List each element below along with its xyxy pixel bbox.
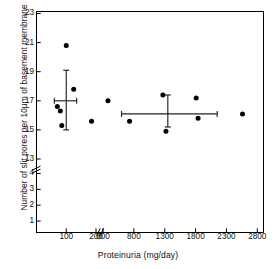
axis-ticks [37,14,258,233]
x-axis-title-unit: (mg/day) [144,250,179,260]
data-point [127,119,132,124]
axis-break-marks [32,166,104,236]
axis-spines [37,12,264,233]
data-point [240,111,245,116]
data-point [89,119,94,124]
scatter-plot-figure: Number of slit pores per 10μm of basemen… [0,0,276,269]
data-point [58,108,63,113]
data-point [59,123,64,128]
summary-error-bars [54,70,217,130]
data-point [163,129,168,134]
data-point [71,87,76,92]
x-axis-title-main: Proteinuria [98,250,141,260]
plot-canvas [0,0,276,269]
error-bar-cross [122,95,218,127]
data-point [194,95,199,100]
x-axis-title: Proteinuria (mg/day) [0,250,276,260]
data-points [55,43,245,134]
data-point [64,43,69,48]
error-bar-cross [54,70,76,130]
data-point [105,98,110,103]
data-point [160,92,165,97]
data-point [55,104,60,109]
data-point [196,116,201,121]
